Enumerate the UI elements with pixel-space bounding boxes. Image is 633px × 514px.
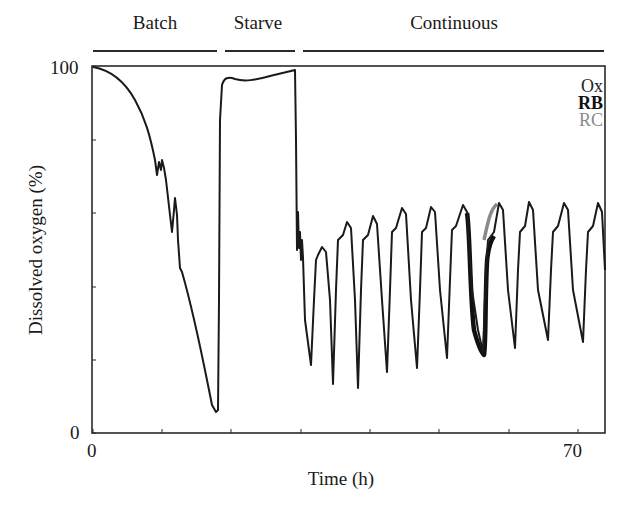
legend-entry-rc: RC <box>578 112 603 129</box>
x-tick-label-70: 70 <box>563 440 582 462</box>
plot-frame <box>92 66 605 433</box>
y-tick-label-0: 0 <box>70 422 80 444</box>
x-axis-label: Time (h) <box>308 468 374 490</box>
legend: Ox RB RC <box>578 78 603 129</box>
y-axis-label: Dissolved oxygen (%) <box>25 165 47 335</box>
series-ox-trace <box>93 67 605 412</box>
y-tick-label-100: 100 <box>50 57 79 79</box>
chart-canvas <box>0 0 633 514</box>
x-tick-label-0: 0 <box>87 440 97 462</box>
